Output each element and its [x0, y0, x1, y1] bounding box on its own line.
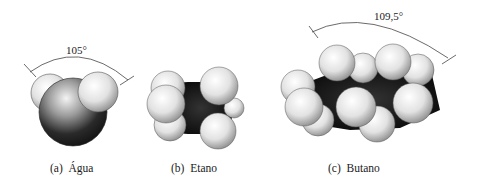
butane-angle-label: 109,5° — [374, 10, 403, 22]
caption-ethane: (b) Etano — [171, 162, 217, 175]
water-molecule: 105° — [24, 44, 134, 146]
water-angle-label: 105° — [66, 44, 87, 56]
ethane-molecule — [147, 67, 244, 149]
molecule-diagram: 105° 109,5° (a) Água (b) Etano (c) — [0, 0, 483, 183]
butane-molecule: 109,5° — [281, 10, 456, 142]
caption-water: (a) Água — [50, 161, 93, 175]
caption-butane: (c) Butano — [328, 162, 380, 175]
